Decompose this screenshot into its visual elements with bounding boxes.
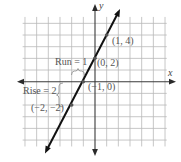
point-neg1-0 — [82, 80, 86, 84]
y-axis-up-arrow-icon — [92, 4, 98, 11]
point-neg2-neg2 — [70, 103, 74, 107]
run-brace — [72, 69, 85, 76]
x-axis-right-arrow-icon — [169, 79, 176, 85]
point-label-0-2: (0, 2) — [97, 57, 119, 69]
coordinate-plane: x y (1, 4) (0, 2) (−1, 0) (−2, −2) Run =… — [0, 0, 181, 162]
function-line-bottom-arrow-icon — [45, 146, 51, 154]
function-line-top-arrow-icon — [114, 9, 120, 17]
y-axis-label: y — [98, 0, 104, 11]
y-axis-down-arrow-icon — [92, 149, 98, 156]
point-label-neg2-neg2: (−2, −2) — [31, 102, 64, 114]
x-axis-label: x — [167, 67, 173, 78]
run-label: Run = 1 — [55, 56, 87, 67]
y-axis — [92, 4, 98, 156]
point-label-neg1-0: (−1, 0) — [88, 81, 115, 93]
point-1-4 — [105, 33, 109, 37]
point-label-1-4: (1, 4) — [112, 35, 134, 47]
rise-label: Rise = 2 — [23, 85, 56, 96]
